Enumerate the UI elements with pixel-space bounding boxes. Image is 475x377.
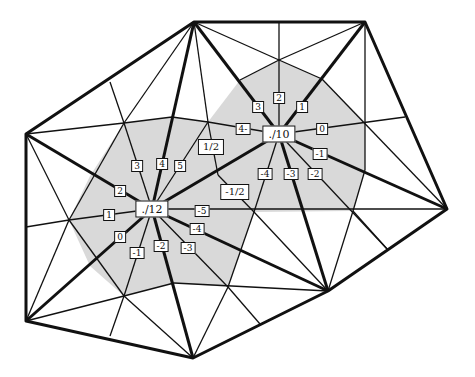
fraction-label: -1/2: [220, 184, 249, 200]
edge-label-c10: 3: [252, 101, 264, 113]
edge-label-c12: -2: [154, 240, 169, 252]
edge-label-c10: 2: [273, 92, 285, 104]
fraction-label: 1/2: [198, 139, 224, 155]
label-layer: 345210-1-2-3-4-53214-0-1-2-3-41/2-1/2./1…: [0, 0, 475, 377]
edge-label-c10: 0: [316, 123, 328, 135]
edge-label-c12: -5: [195, 205, 210, 217]
edge-label-c10: -3: [284, 168, 299, 180]
edge-label-c10: 4-: [236, 123, 251, 135]
edge-label-c12: 3: [131, 160, 143, 172]
edge-label-c12: 0: [114, 231, 126, 243]
edge-label-c12: 5: [174, 160, 186, 172]
edge-label-c10: -1: [313, 148, 328, 160]
edge-label-c12: 2: [114, 185, 126, 197]
edge-label-c12: 1: [103, 209, 115, 221]
edge-label-c10: 1: [296, 101, 308, 113]
edge-label-c12: -1: [130, 247, 145, 259]
center-label: ./12: [135, 201, 168, 218]
edge-label-c12: 4: [156, 158, 168, 170]
edge-label-c12: -3: [181, 242, 196, 254]
edge-label-c10: -2: [308, 168, 323, 180]
edge-label-c12: -4: [190, 223, 205, 235]
center-label: ./10: [262, 126, 295, 143]
edge-label-c10: -4: [258, 168, 273, 180]
